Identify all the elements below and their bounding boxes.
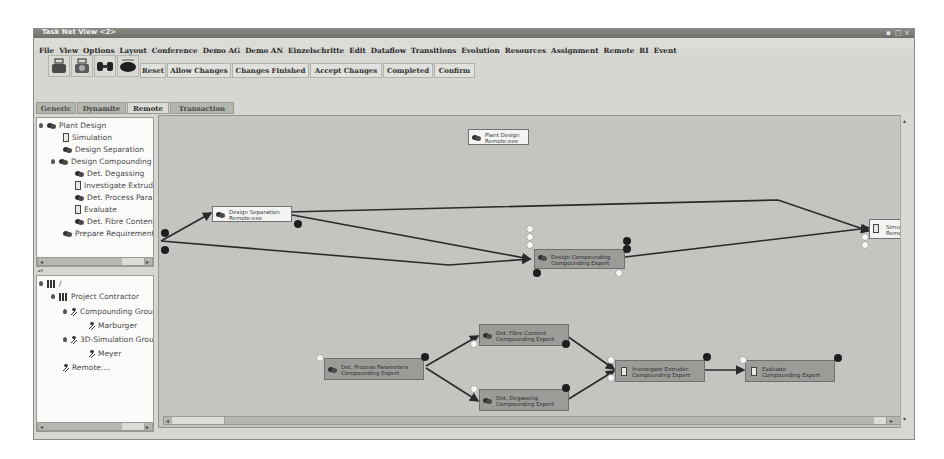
output-port[interactable] xyxy=(703,353,711,361)
scroll-down-icon[interactable]: ▾ xyxy=(903,415,906,422)
scroll-thumb[interactable] xyxy=(122,258,145,265)
tab-generic[interactable]: Generic xyxy=(36,102,76,114)
task-gear-icon xyxy=(75,218,84,225)
scroll-right-icon[interactable]: ▸ xyxy=(146,423,149,430)
task-gear-icon xyxy=(63,230,72,237)
input-port[interactable] xyxy=(526,241,534,249)
tab-remote[interactable]: Remote xyxy=(127,102,169,114)
close-icon[interactable]: × xyxy=(904,29,910,37)
tree-node-design-compounding[interactable]: Design Compounding xyxy=(51,156,152,167)
scroll-up-icon[interactable]: ▴ xyxy=(903,117,906,124)
completed-button[interactable]: Completed xyxy=(383,63,433,78)
canvas-hscrollbar[interactable]: ◂ ▸ xyxy=(163,416,901,425)
node-design-separation[interactable]: Design Separation Remote:eee xyxy=(212,206,292,222)
expand-icon[interactable] xyxy=(63,309,67,314)
output-port[interactable] xyxy=(533,269,541,277)
org-node-marburger[interactable]: Marburger xyxy=(89,320,137,331)
input-port[interactable] xyxy=(607,374,615,382)
tree-node-det-process-parameters[interactable]: Det. Process Parameters xyxy=(75,192,154,203)
scroll-thumb[interactable] xyxy=(172,417,225,424)
node-det-process-parameters[interactable]: Det. Process Parameters Compounding Expe… xyxy=(324,358,424,380)
output-port[interactable] xyxy=(294,220,302,228)
document-icon xyxy=(621,367,627,376)
expand-icon[interactable] xyxy=(39,281,43,286)
tree-node-plant-design[interactable]: Plant Design xyxy=(39,120,106,131)
output-port[interactable] xyxy=(161,246,169,254)
minimize-icon[interactable]: ▪ xyxy=(886,29,891,37)
task-net-canvas[interactable]: Plant Design Remote:eee Design Separatio… xyxy=(158,115,910,428)
node-plant-design[interactable]: Plant Design Remote:eee xyxy=(468,129,529,145)
input-port[interactable] xyxy=(615,269,623,277)
task-tree: Plant Design Simulation Design Separatio… xyxy=(36,117,154,267)
org-node-root[interactable]: / xyxy=(39,278,62,289)
input-port[interactable] xyxy=(470,340,478,348)
task-gear-icon xyxy=(59,158,68,165)
node-simulation[interactable]: Simulation Remote xyxy=(869,219,901,239)
document-icon xyxy=(75,205,81,214)
scroll-thumb[interactable] xyxy=(122,423,145,430)
output-port[interactable] xyxy=(562,384,570,392)
expand-icon[interactable] xyxy=(51,294,55,299)
org-node-3d-simulation-group[interactable]: 3D-Simulation Group xyxy=(63,334,154,345)
input-port[interactable] xyxy=(316,354,324,362)
scroll-left-icon[interactable]: ◂ xyxy=(40,423,43,430)
tab-dynamite[interactable]: Dynamite xyxy=(77,102,126,114)
toolbar: Reset Allow Changes Changes Finished Acc… xyxy=(34,50,914,79)
task-tree-hscrollbar[interactable]: ◂ ▸ xyxy=(37,257,153,266)
link-icon xyxy=(95,56,115,76)
tree-node-investigate-extruder[interactable]: Investigate Extruder xyxy=(75,180,154,191)
input-port[interactable] xyxy=(739,356,747,364)
input-port[interactable] xyxy=(470,385,478,393)
output-port[interactable] xyxy=(421,353,429,361)
expand-icon[interactable] xyxy=(39,123,43,128)
input-port[interactable] xyxy=(526,225,534,233)
node-evaluate[interactable]: Evaluate Compounding Expert xyxy=(745,360,835,382)
allow-changes-button[interactable]: Allow Changes xyxy=(167,63,231,78)
title-bar[interactable]: Task Net View <2> ▪ □ × xyxy=(34,29,914,38)
remote-button[interactable] xyxy=(117,55,139,77)
expand-icon[interactable] xyxy=(51,159,55,164)
org-node-compounding-group[interactable]: Compounding Group xyxy=(63,306,154,317)
org-tree-hscrollbar[interactable]: ◂ ▸ xyxy=(37,422,153,431)
task-net-button-1[interactable] xyxy=(48,55,70,77)
confirm-button[interactable]: Confirm xyxy=(434,63,475,78)
canvas-vscrollbar[interactable]: ▴ ▾ xyxy=(900,115,910,428)
input-port[interactable] xyxy=(861,241,869,249)
accept-changes-button[interactable]: Accept Changes xyxy=(310,63,382,78)
tree-node-prepare-requirements[interactable]: Prepare Requirements xyxy=(63,228,154,239)
node-investigate-extruder[interactable]: Investigate Extruder Compounding Expert xyxy=(615,360,705,382)
changes-finished-button[interactable]: Changes Finished xyxy=(232,63,309,78)
tree-node-det-fibre-content[interactable]: Det. Fibre Content xyxy=(75,216,154,227)
output-port[interactable] xyxy=(562,340,570,348)
org-node-remote[interactable]: Remote:... xyxy=(63,362,111,373)
tab-transaction[interactable]: Transaction xyxy=(170,102,234,114)
input-port[interactable] xyxy=(607,356,615,364)
scroll-right-icon[interactable]: ▸ xyxy=(146,258,149,265)
node-design-compounding[interactable]: Design Compounding Compounding Expert xyxy=(534,249,625,269)
node-det-fibre-content[interactable]: Det. Fibre Content Compounding Expert xyxy=(479,324,569,346)
tree-node-evaluate[interactable]: Evaluate xyxy=(75,204,117,215)
org-node-project-contractor[interactable]: Project Contractor xyxy=(51,291,139,302)
output-port[interactable] xyxy=(161,229,169,237)
maximize-icon[interactable]: □ xyxy=(895,29,902,37)
tree-node-simulation[interactable]: Simulation xyxy=(63,132,112,143)
split-pane-divider[interactable]: ▴▾ xyxy=(38,267,43,273)
link-button[interactable] xyxy=(94,55,116,77)
output-port[interactable] xyxy=(623,237,631,245)
scroll-right-icon[interactable]: ▸ xyxy=(890,417,893,424)
output-port[interactable] xyxy=(834,354,842,362)
tree-node-design-separation[interactable]: Design Separation xyxy=(63,144,144,155)
org-node-meyer[interactable]: Meyer xyxy=(89,348,121,359)
task-net-button-2[interactable] xyxy=(71,55,93,77)
expand-icon[interactable] xyxy=(63,337,67,342)
output-port[interactable] xyxy=(623,245,631,253)
tree-node-det-degassing[interactable]: Det. Degassing xyxy=(75,168,144,179)
task-gear-icon xyxy=(75,170,84,177)
scroll-left-icon[interactable]: ◂ xyxy=(40,258,43,265)
node-det-degassing[interactable]: Det. Degassing Compounding Expert xyxy=(479,389,569,411)
input-port[interactable] xyxy=(861,233,869,241)
scroll-left-icon[interactable]: ◂ xyxy=(166,417,169,424)
reset-button[interactable]: Reset xyxy=(140,63,166,78)
scroll-thumb-end[interactable] xyxy=(874,417,887,424)
input-port[interactable] xyxy=(526,233,534,241)
